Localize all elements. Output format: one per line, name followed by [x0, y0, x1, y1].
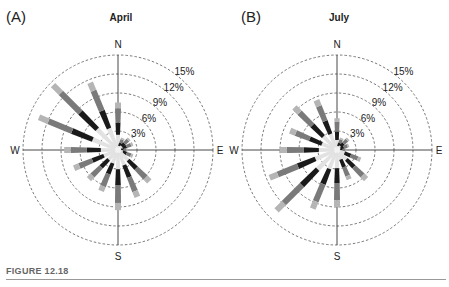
bar-S [115, 153, 121, 210]
ring-label-9: 9% [153, 97, 168, 108]
compass-w: W [10, 145, 20, 156]
caption-divider [6, 279, 446, 280]
compass-s: S [115, 251, 122, 262]
ring-label-6: 6% [361, 113, 376, 124]
center-hub [115, 147, 121, 153]
compass-n: N [333, 39, 340, 50]
center-hub [334, 147, 340, 153]
compass-e: E [217, 145, 224, 156]
bar-N [115, 103, 121, 148]
wind-rose-charts: 3%6%9%12%15%NESW3%6%9%12%15%NESW [0, 0, 449, 287]
ring-label-15: 15% [175, 66, 195, 77]
figure-caption: FIGURE 12.18 [6, 266, 69, 276]
ring-label-6: 6% [142, 113, 157, 124]
compass-w: W [229, 145, 239, 156]
compass-s: S [334, 251, 341, 262]
ring-label-12: 12% [164, 82, 184, 93]
bar-NW [51, 83, 117, 149]
bar-S [334, 153, 340, 207]
ring-label-3: 3% [350, 128, 365, 139]
ring-label-12: 12% [383, 82, 403, 93]
wind-rose-april: 3%6%9%12%15%NESW [10, 39, 223, 262]
bar-W [280, 147, 334, 153]
compass-e: E [436, 145, 443, 156]
ring-label-15: 15% [394, 66, 414, 77]
ring-label-3: 3% [131, 128, 146, 139]
bar-W [64, 147, 115, 153]
wind-rose-july: 3%6%9%12%15%NESW [229, 39, 442, 262]
compass-n: N [114, 39, 121, 50]
ring-label-9: 9% [372, 97, 387, 108]
